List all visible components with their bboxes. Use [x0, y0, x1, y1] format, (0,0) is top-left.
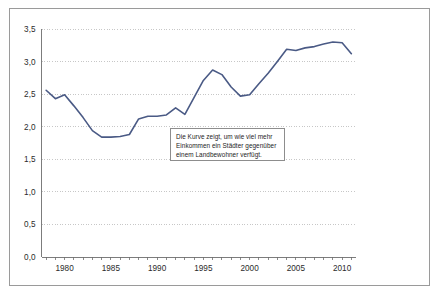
- y-axis-tick-labels: 0,00,51,01,52,02,53,03,5: [24, 25, 36, 262]
- annotation-callout: Die Kurve zeigt, um wie viel mehr Einkom…: [170, 128, 285, 161]
- y-tick-label: 1,0: [24, 188, 36, 197]
- line-chart: 0,00,51,01,52,02,53,03,5 198019851990199…: [0, 0, 439, 294]
- series-line: [46, 42, 351, 137]
- x-tick-label: 1995: [194, 264, 213, 273]
- x-tick-label: 1990: [148, 264, 167, 273]
- x-tick-label: 2010: [333, 264, 352, 273]
- chart-page: 0,00,51,01,52,02,53,03,5 198019851990199…: [0, 0, 439, 294]
- y-tick-label: 0,0: [24, 253, 36, 262]
- x-tick-label: 1985: [102, 264, 121, 273]
- x-axis-ticks: [46, 257, 351, 260]
- y-tick-label: 0,5: [24, 220, 36, 229]
- x-tick-label: 2000: [241, 264, 260, 273]
- y-tick-label: 2,0: [24, 123, 36, 132]
- y-tick-label: 1,5: [24, 155, 36, 164]
- x-axis-tick-labels: 1980198519901995200020052010: [56, 264, 352, 273]
- x-tick-label: 2005: [287, 264, 306, 273]
- y-tick-label: 3,0: [24, 58, 36, 67]
- y-tick-label: 3,5: [24, 25, 36, 34]
- y-tick-label: 2,5: [24, 90, 36, 99]
- annotation-text: Die Kurve zeigt, um wie viel mehr Einkom…: [176, 132, 280, 160]
- x-tick-label: 1980: [56, 264, 75, 273]
- data-series-line: [46, 42, 351, 137]
